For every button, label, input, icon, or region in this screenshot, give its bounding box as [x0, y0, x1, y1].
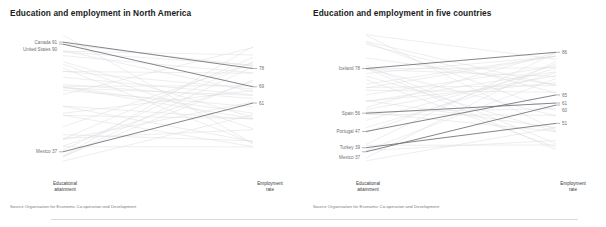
slopegraph-svg-north-america: Canada 9178United States 9069Mexico 3761	[0, 26, 303, 174]
chart-panel-five-countries: Education and employment in five countri…	[303, 0, 606, 227]
series-label-right: 60	[562, 108, 568, 113]
background-series-line	[366, 68, 556, 120]
series-label-left: Canada 91	[35, 40, 58, 45]
background-series-line	[366, 64, 556, 133]
highlighted-series-group	[362, 52, 560, 152]
background-series-line	[63, 57, 253, 139]
chart-panel-north-america: Education and employment in North Americ…	[0, 0, 303, 227]
background-series-line	[63, 51, 253, 55]
footer-divider	[51, 219, 578, 220]
chart-title-north-america: Education and employment in North Americ…	[10, 8, 191, 18]
background-series-line	[63, 52, 253, 65]
series-label-left: Iceland 78	[339, 66, 361, 71]
chart-title-five-countries: Education and employment in five countri…	[313, 8, 491, 18]
series-label-right: 51	[562, 121, 568, 126]
series-label-left: Mexico 37	[36, 149, 57, 154]
background-series-line	[366, 86, 556, 88]
axis-left-line2: attainment	[339, 187, 397, 193]
background-series-line	[63, 87, 253, 113]
background-series-line	[63, 90, 253, 107]
series-label-left: Portugal 47	[337, 129, 361, 134]
background-series-group	[63, 35, 253, 161]
series-label-right: 86	[562, 50, 568, 55]
source-note-north-america: Source Organisation for Economic Co-oper…	[10, 204, 136, 209]
background-series-line	[366, 35, 556, 130]
background-series-line	[63, 62, 253, 150]
axis-left-line2: attainment	[36, 187, 94, 193]
axis-label-educational-attainment: Educational attainment	[36, 181, 94, 193]
plot-area-north-america: Canada 9178United States 9069Mexico 3761	[0, 26, 303, 174]
background-series-line	[366, 76, 556, 132]
axis-label-educational-attainment: Educational attainment	[339, 181, 397, 193]
series-label-right: 61	[259, 101, 265, 106]
slopegraph-svg-five-countries: Iceland 7886Spain 5661Portugal 4765Turke…	[303, 26, 606, 174]
background-series-line	[366, 61, 556, 158]
axis-right-line2: rate	[244, 187, 296, 193]
background-series-line	[366, 35, 556, 59]
series-label-left: Spain 56	[342, 111, 361, 116]
background-series-line	[366, 56, 556, 88]
axis-label-employment-rate: Employment rate	[244, 181, 296, 193]
highlighted-series-line	[63, 42, 253, 68]
slopegraph-figure: Education and employment in North Americ…	[0, 0, 606, 227]
background-series-line	[63, 90, 253, 113]
background-series-line	[366, 140, 556, 150]
background-series-line	[366, 42, 556, 86]
axis-right-line2: rate	[547, 187, 599, 193]
series-label-right: 78	[259, 66, 265, 71]
axis-label-employment-rate: Employment rate	[547, 181, 599, 193]
series-label-left: Mexico 37	[339, 155, 360, 160]
series-label-right: 65	[562, 93, 568, 98]
background-series-line	[366, 56, 556, 73]
plot-area-five-countries: Iceland 7886Spain 5661Portugal 4765Turke…	[303, 26, 606, 174]
highlighted-series-line	[63, 44, 253, 87]
series-label-right: 61	[562, 101, 568, 106]
background-series-group	[366, 35, 556, 161]
source-note-five-countries: Source Organisation for Economic Co-oper…	[313, 204, 439, 209]
series-label-right: 69	[259, 84, 265, 89]
series-label-left: United States 90	[23, 47, 57, 52]
highlighted-series-line	[366, 95, 556, 132]
series-label-left: Turkey 39	[340, 145, 361, 150]
